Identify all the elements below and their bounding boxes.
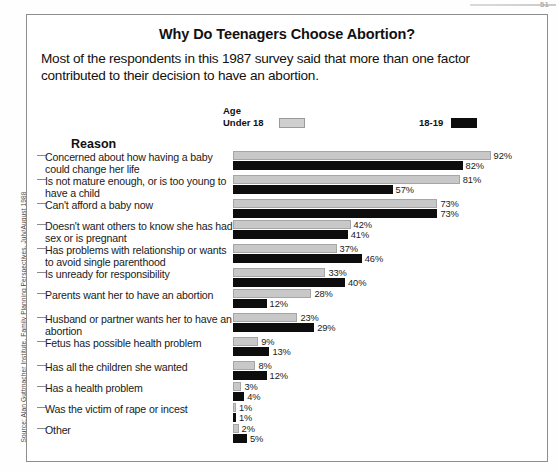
bar-series-under-18 [233, 313, 297, 322]
reason-label: Was the victim of rape or incest [45, 403, 235, 415]
bar-series-18-19 [233, 299, 267, 308]
bar-value-label: 57% [396, 185, 414, 195]
bar-value-label: 41% [351, 230, 369, 240]
bar-value-label: 33% [328, 268, 346, 278]
bar-series-18-19 [233, 413, 236, 422]
row-bars: 9%13% [233, 337, 549, 357]
bar-series-under-18 [233, 337, 258, 346]
bar-value-label: 1% [239, 403, 252, 413]
bar-line: 23% [233, 313, 549, 322]
bar-series-under-18 [233, 289, 311, 298]
bar-value-label: 40% [348, 278, 366, 288]
bar-line: 4% [233, 392, 549, 401]
bar-line: 12% [233, 299, 549, 308]
bar-line: 92% [233, 151, 549, 160]
bar-series-under-18 [233, 244, 337, 253]
bar-line: 12% [233, 371, 549, 380]
bar-series-under-18 [233, 175, 460, 184]
bar-series-under-18 [233, 151, 491, 160]
bar-series-18-19 [233, 347, 269, 356]
legend-group-title: Age [223, 105, 543, 116]
row-bars: 92%82% [233, 151, 549, 171]
bar-line: 9% [233, 337, 549, 346]
chart-row: Can't afford a baby now73%73% [27, 199, 549, 220]
row-bars: 81%57% [233, 175, 549, 195]
chart-subtitle: Most of the respondents in this 1987 sur… [41, 51, 533, 85]
bar-line: 8% [233, 361, 549, 370]
bar-value-label: 2% [242, 424, 255, 434]
legend-label-under-18: Under 18 [223, 117, 279, 128]
row-bars: 1%1% [233, 403, 549, 423]
chart-rows: Concerned about how having a baby could … [27, 151, 549, 445]
row-bars: 28%12% [233, 289, 549, 309]
bar-value-label: 1% [239, 413, 252, 423]
bar-series-18-19 [233, 278, 345, 287]
bar-line: 81% [233, 175, 549, 184]
legend-swatch-under-18 [279, 118, 305, 128]
bar-line: 29% [233, 323, 549, 332]
bar-series-under-18 [233, 382, 241, 391]
chart-row: Is unready for responsibility33%40% [27, 268, 549, 289]
bar-value-label: 9% [261, 337, 274, 347]
bar-series-18-19 [233, 230, 348, 239]
reason-label: Can't afford a baby now [45, 199, 235, 211]
bar-series-18-19 [233, 185, 393, 194]
bar-value-label: 82% [466, 161, 484, 171]
bar-value-label: 92% [494, 151, 512, 161]
bar-line: 41% [233, 230, 549, 239]
legend-entries: Under 18 18-19 [223, 117, 543, 128]
page-canvas: 51 Source: Alan Guttmacher Institute, Fa… [0, 0, 558, 473]
bar-series-under-18 [233, 268, 325, 277]
bar-series-under-18 [233, 403, 236, 412]
bar-value-label: 42% [354, 220, 372, 230]
bar-line: 2% [233, 424, 549, 433]
bar-value-label: 73% [440, 199, 458, 209]
bar-value-label: 4% [247, 392, 260, 402]
bar-line: 42% [233, 220, 549, 229]
reason-label: Concerned about how having a baby could … [45, 151, 235, 176]
chart-row: Doesn't want others to know she has had … [27, 220, 549, 244]
bar-line: 37% [233, 244, 549, 253]
bar-line: 73% [233, 209, 549, 218]
legend-label-18-19: 18-19 [419, 117, 443, 128]
row-bars: 73%73% [233, 199, 549, 219]
bar-value-label: 13% [272, 347, 290, 357]
bar-value-label: 3% [244, 382, 257, 392]
chart-row: Is not mature enough, or is too young to… [27, 175, 549, 199]
chart-row: Has problems with relationship or wants … [27, 244, 549, 268]
bar-value-label: 37% [340, 244, 358, 254]
bar-value-label: 5% [250, 434, 263, 444]
bar-line: 82% [233, 161, 549, 170]
chart-row: Has all the children she wanted8%12% [27, 361, 549, 382]
page-number-corner: 51 [540, 0, 554, 9]
chart-title: Why Do Teenagers Choose Abortion? [27, 26, 547, 42]
bar-line: 46% [233, 254, 549, 263]
bar-value-label: 29% [317, 323, 335, 333]
reason-label: Husband or partner wants her to have an … [45, 313, 235, 338]
bar-value-label: 23% [300, 313, 318, 323]
bar-line: 3% [233, 382, 549, 391]
bar-line: 1% [233, 403, 549, 412]
bar-line: 73% [233, 199, 549, 208]
reason-column-header: Reason [71, 137, 116, 151]
bar-series-18-19 [233, 209, 437, 218]
chart-row: Fetus has possible health problem9%13% [27, 337, 549, 361]
bar-series-18-19 [233, 161, 463, 170]
reason-label: Parents want her to have an abortion [45, 289, 235, 301]
bar-series-18-19 [233, 323, 314, 332]
bar-line: 40% [233, 278, 549, 287]
bar-value-label: 81% [463, 175, 481, 185]
bar-series-18-19 [233, 254, 362, 263]
row-bars: 37%46% [233, 244, 549, 264]
row-bars: 33%40% [233, 268, 549, 288]
bar-line: 13% [233, 347, 549, 356]
reason-label: Has a health problem [45, 382, 235, 394]
reason-label: Has all the children she wanted [45, 361, 235, 373]
bar-line: 1% [233, 413, 549, 422]
row-bars: 8%12% [233, 361, 549, 381]
bar-value-label: 12% [270, 299, 288, 309]
bar-value-label: 8% [258, 361, 271, 371]
legend-swatch-18-19 [451, 118, 477, 128]
row-bars: 2%5% [233, 424, 549, 444]
bar-series-under-18 [233, 361, 255, 370]
